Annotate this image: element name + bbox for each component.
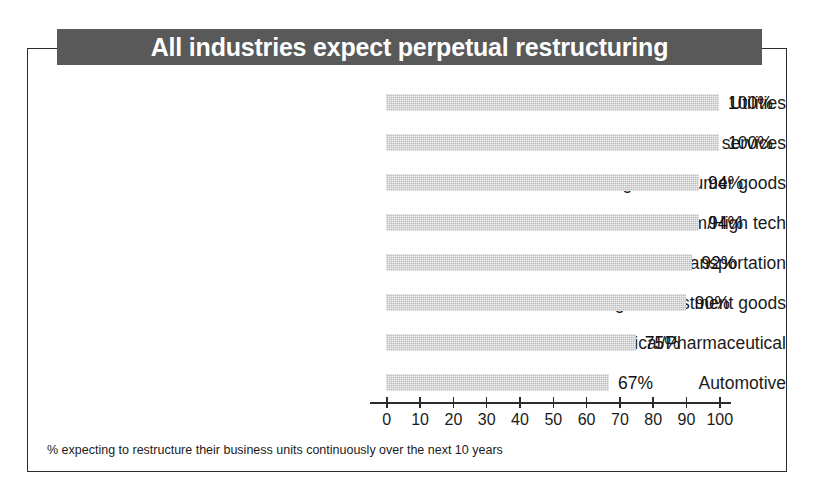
x-axis-tick bbox=[419, 397, 421, 408]
bar-row: Financial services100% bbox=[28, 131, 786, 155]
x-axis-tick bbox=[686, 397, 688, 408]
bar-row: Transportation92% bbox=[28, 251, 786, 275]
bar-value-label: 90% bbox=[695, 291, 730, 315]
bar-value-label: 100% bbox=[728, 131, 773, 155]
bar-value-label: 67% bbox=[618, 371, 653, 395]
page-title: All industries expect perpetual restruct… bbox=[151, 33, 669, 62]
x-axis-tick-label: 50 bbox=[544, 411, 562, 429]
x-axis-tick bbox=[453, 397, 455, 408]
x-axis-tick-label: 0 bbox=[382, 411, 391, 429]
bar-value-label: 75% bbox=[645, 331, 680, 355]
x-axis-tick-label: 20 bbox=[444, 411, 462, 429]
bar bbox=[386, 214, 699, 231]
bar bbox=[386, 174, 699, 191]
x-axis-tick-label: 40 bbox=[511, 411, 529, 429]
bar bbox=[386, 254, 692, 271]
x-axis-line bbox=[370, 402, 731, 404]
bar-track bbox=[386, 371, 719, 395]
x-axis-tick-label: 80 bbox=[644, 411, 662, 429]
x-axis-tick bbox=[519, 397, 521, 408]
bar-row: Automotive67% bbox=[28, 371, 786, 395]
x-axis-tick bbox=[719, 397, 721, 408]
x-axis-tick-label: 100 bbox=[706, 411, 733, 429]
x-axis-tick-label: 10 bbox=[411, 411, 429, 429]
x-axis-tick bbox=[553, 397, 555, 408]
bar-value-label: 100% bbox=[728, 91, 773, 115]
bar-track bbox=[386, 91, 719, 115]
x-axis-tick bbox=[486, 397, 488, 408]
bar-track bbox=[386, 251, 719, 275]
bar-row: Chemical/Pharmaceutical75% bbox=[28, 331, 786, 355]
x-axis: 0102030405060708090100 bbox=[370, 402, 731, 442]
x-axis-tick bbox=[386, 397, 388, 408]
bar bbox=[386, 134, 719, 151]
x-axis-tick bbox=[586, 397, 588, 408]
x-axis-tick-label: 60 bbox=[578, 411, 596, 429]
bar-value-label: 94% bbox=[708, 211, 743, 235]
x-axis-tick-label: 70 bbox=[611, 411, 629, 429]
bar-track bbox=[386, 291, 719, 315]
bar-row: Utilities100% bbox=[28, 91, 786, 115]
bar-track bbox=[386, 131, 719, 155]
x-axis-tick-label: 30 bbox=[478, 411, 496, 429]
bar bbox=[386, 294, 686, 311]
bar-value-label: 94% bbox=[708, 171, 743, 195]
bar-row: Manufacturing of consumer goods94% bbox=[28, 171, 786, 195]
bar bbox=[386, 94, 719, 111]
x-axis-tick bbox=[652, 397, 654, 408]
x-axis-tick-label: 90 bbox=[678, 411, 696, 429]
bar bbox=[386, 374, 609, 391]
chart-title-banner: All industries expect perpetual restruct… bbox=[57, 29, 762, 65]
bar-value-label: 92% bbox=[701, 251, 736, 275]
footnote: % expecting to restructure their busines… bbox=[47, 443, 503, 457]
bar-row: Manufacturing of investment goods90% bbox=[28, 291, 786, 315]
x-axis-tick bbox=[619, 397, 621, 408]
bar bbox=[386, 334, 636, 351]
chart-frame: Utilities100%Financial services100%Manuf… bbox=[27, 48, 787, 472]
bar-row: Telecom/High tech94% bbox=[28, 211, 786, 235]
bar-track bbox=[386, 211, 719, 235]
bar-track bbox=[386, 171, 719, 195]
